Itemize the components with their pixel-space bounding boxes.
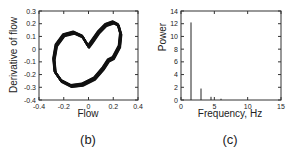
y-tick-label: -0.1 — [24, 58, 36, 65]
b-xlabel: Flow — [77, 108, 99, 119]
c-xlabel: Frequency, Hz — [198, 108, 262, 119]
x-tick-label: -0.4 — [33, 103, 45, 110]
trajectory-loop — [53, 21, 120, 85]
y-tick-label: 0 — [174, 97, 178, 104]
y-tick-label: -0.2 — [24, 71, 36, 78]
c-ylabel: Power — [157, 22, 168, 51]
trajectory-loop — [54, 23, 121, 87]
y-tick-label: 14 — [170, 8, 178, 15]
axes-frame — [181, 11, 281, 100]
y-tick-label: 0.1 — [26, 33, 36, 40]
trajectory-loop — [54, 22, 121, 86]
y-tick-label: 12 — [170, 20, 178, 27]
y-tick-label: 0.3 — [26, 8, 36, 15]
y-tick-label: 0 — [32, 46, 36, 53]
x-tick-label: 15 — [277, 103, 285, 110]
trajectory-loop — [54, 23, 121, 87]
x-tick-label: 0 — [179, 103, 183, 110]
caption-b: (b) — [68, 132, 108, 147]
y-tick-label: 10 — [170, 33, 178, 40]
trajectory-loop — [54, 22, 121, 86]
caption-c: (c) — [210, 132, 250, 147]
x-tick-label: 0.2 — [108, 103, 118, 110]
y-tick-label: -0.4 — [24, 97, 36, 104]
y-tick-label: -0.3 — [24, 84, 36, 91]
y-tick-label: 0.2 — [26, 20, 36, 27]
x-tick-label: 0.4 — [133, 103, 143, 110]
y-tick-label: 2 — [174, 84, 178, 91]
y-tick-label: 6 — [174, 58, 178, 65]
b-ylabel: Derivative of flow — [8, 16, 19, 93]
x-tick-label: -0.2 — [58, 103, 70, 110]
y-tick-label: 8 — [174, 46, 178, 53]
y-tick-label: 4 — [174, 71, 178, 78]
